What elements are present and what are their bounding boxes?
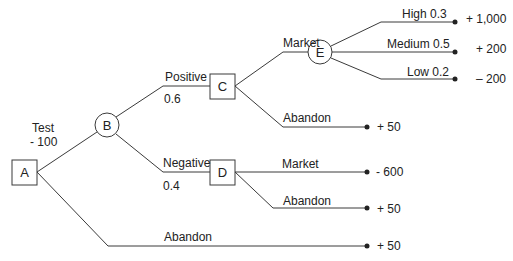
terminal-dot [365, 170, 370, 175]
e-low-label: Low 0.2 [407, 66, 449, 78]
c-abandon-payoff: + 50 [377, 121, 401, 133]
test-cost: - 100 [30, 136, 57, 148]
c-abandon-label: Abandon [283, 112, 331, 124]
d-market-payoff: - 600 [376, 166, 403, 178]
terminal-dot [365, 206, 370, 211]
d-market-label: Market [282, 158, 319, 170]
node-c-label: C [210, 80, 235, 93]
node-d-label: D [210, 166, 235, 179]
d-abandon-label: Abandon [283, 195, 331, 207]
positive-label: Positive [165, 71, 207, 83]
e-high-payoff: + 1,000 [466, 13, 506, 25]
d-abandon-payoff: + 50 [377, 203, 401, 215]
a-abandon-payoff: + 50 [377, 240, 401, 252]
e-high-label: High 0.3 [402, 8, 447, 20]
terminal-dot [365, 125, 370, 130]
node-b-label: B [95, 119, 119, 132]
c-market-label: Market [283, 37, 320, 49]
test-label: Test [32, 122, 54, 134]
node-a-label: A [12, 166, 37, 179]
e-low-payoff: – 200 [476, 73, 506, 85]
terminal-dot [453, 50, 458, 55]
e-medium-label: Medium 0.5 [387, 38, 450, 50]
negative-prob: 0.4 [163, 180, 180, 192]
terminal-dot [453, 20, 458, 25]
e-medium-payoff: + 200 [476, 43, 506, 55]
a-abandon-label: Abandon [164, 231, 212, 243]
terminal-dot [365, 244, 370, 249]
terminal-dot [453, 77, 458, 82]
negative-label: Negative [163, 157, 210, 169]
positive-prob: 0.6 [164, 93, 181, 105]
